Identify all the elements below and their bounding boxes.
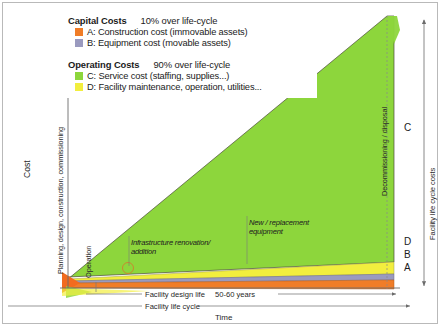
annotation-infrastructure-line1: Infrastructure renovation/ [131, 238, 210, 247]
legend-label-c: C: Service cost (staffing, supplies...) [87, 71, 229, 81]
legend-swatch-d-icon [75, 83, 83, 91]
legend-swatch-b-icon [75, 39, 83, 47]
band-letter-c: C [404, 122, 411, 133]
legend-spacer [68, 50, 313, 59]
phase-label-decommissioning: Decommissioning / disposal [380, 107, 389, 196]
annotation-equipment-line2: equipment [249, 227, 309, 236]
design-life-years: 50-60 years [215, 290, 255, 299]
legend-label-b: B: Equipment cost (movable assets) [87, 38, 231, 48]
legend-label-a: A: Construction cost (immovable assets) [87, 27, 248, 37]
legend-group-operating: Operating Costs90% over life-cycle C: Se… [68, 59, 313, 92]
annotation-equipment-line1: New / replacement [249, 218, 309, 227]
lifecycle-costs-label: Facility life cycle costs [428, 168, 437, 240]
legend-swatch-a-icon [75, 28, 83, 36]
band-letter-a: A [404, 262, 411, 273]
legend-label-d: D: Facility maintenance, operation, util… [87, 82, 262, 92]
legend-heading-capital: Capital Costs10% over life-cycle [68, 15, 313, 26]
annotation-infrastructure-line2: addition [131, 247, 210, 256]
design-life-label: Facility design life [145, 290, 205, 299]
chart-legend: Capital Costs10% over life-cycle A: Cons… [64, 12, 317, 98]
band-letter-d: D [404, 236, 411, 247]
legend-swatch-c-icon [75, 72, 83, 80]
legend-heading-operating: Operating Costs90% over life-cycle [68, 59, 313, 70]
legend-item-a: A: Construction cost (immovable assets) [68, 27, 313, 37]
phase-label-operation: Operation [84, 246, 93, 278]
legend-item-d: D: Facility maintenance, operation, util… [68, 82, 313, 92]
life-cycle-label: Facility life cycle [145, 302, 200, 311]
legend-item-c: C: Service cost (staffing, supplies...) [68, 71, 313, 81]
legend-group-capital: Capital Costs10% over life-cycle A: Cons… [68, 15, 313, 48]
legend-item-b: B: Equipment cost (movable assets) [68, 38, 313, 48]
legend-capital-share: 10% over life-cycle [127, 15, 218, 26]
legend-heading-capital-text: Capital Costs [68, 15, 127, 26]
x-axis-title: Time [215, 313, 232, 322]
legend-heading-operating-text: Operating Costs [68, 59, 139, 70]
annotation-infrastructure-renovation: Infrastructure renovation/ addition [131, 238, 210, 257]
band-letter-b: B [404, 249, 411, 260]
legend-operating-share: 90% over life-cycle [139, 59, 230, 70]
annotation-new-replacement-equipment: New / replacement equipment [249, 218, 309, 237]
chart-page: Capital Costs10% over life-cycle A: Cons… [0, 0, 441, 327]
phase-label-design: Planning, design, construction, commissi… [56, 127, 65, 274]
y-axis-title: Cost [22, 160, 32, 178]
